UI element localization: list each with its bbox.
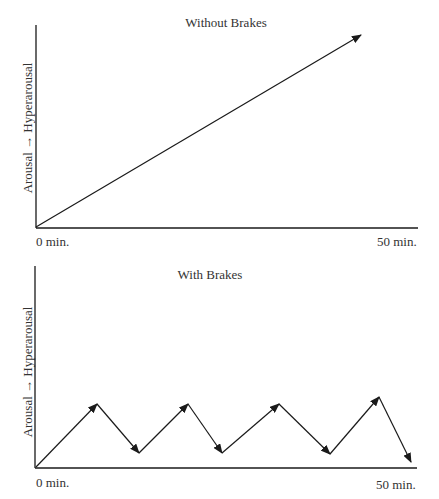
chart-with-brakes: With Brakes Arousal → Hyperarousal 0 min… <box>0 0 439 499</box>
zigzag-arrows <box>36 397 411 467</box>
plot-area <box>0 0 439 499</box>
